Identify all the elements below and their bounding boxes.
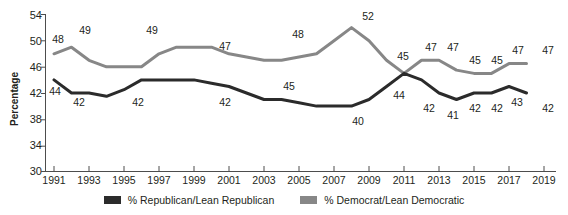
legend-swatch-democrat bbox=[300, 196, 317, 204]
legend-label-democrat: % Democrat/Lean Democratic bbox=[324, 194, 464, 206]
point-label-rep-2012: 42 bbox=[416, 102, 442, 114]
legend-swatch-republican bbox=[104, 196, 121, 204]
point-label-rep-2016: 43 bbox=[504, 96, 530, 108]
legend-item-republican[interactable]: % Republican/Lean Republican bbox=[104, 194, 275, 206]
point-label-rep-1991: 44 bbox=[42, 85, 68, 97]
point-label-rep-2018: 42 bbox=[535, 102, 561, 114]
legend-item-democrat[interactable]: % Democrat/Lean Democratic bbox=[300, 194, 464, 206]
chart-legend: % Republican/Lean Republican % Democrat/… bbox=[0, 194, 568, 206]
x-tick-marks bbox=[54, 166, 544, 172]
point-label-dem-1998: 49 bbox=[139, 24, 165, 36]
point-label-dem-2008: 52 bbox=[355, 10, 381, 22]
point-label-dem-1991: 48 bbox=[45, 33, 71, 45]
point-label-rep-2000: 42 bbox=[212, 96, 238, 108]
point-label-dem-2013: 47 bbox=[440, 41, 466, 53]
point-label-dem-2006: 48 bbox=[285, 28, 311, 40]
point-label-rep-1993: 42 bbox=[66, 96, 92, 108]
point-label-dem-2017: 47 bbox=[505, 44, 531, 56]
legend-label-republican: % Republican/Lean Republican bbox=[128, 194, 275, 206]
point-label-dem-2003: 47 bbox=[212, 40, 238, 52]
chart-container: Percentage 54 50 46 42 38 34 30 1991 199… bbox=[0, 0, 568, 215]
point-label-rep-2008: 40 bbox=[345, 115, 371, 127]
point-label-dem-1993: 49 bbox=[72, 24, 98, 36]
point-label-dem-2018: 47 bbox=[535, 44, 561, 56]
point-label-rep-2004: 45 bbox=[276, 80, 302, 92]
point-label-dem-2010: 45 bbox=[390, 50, 416, 62]
point-label-rep-2010: 44 bbox=[386, 89, 412, 101]
point-label-rep-1996: 42 bbox=[125, 96, 151, 108]
